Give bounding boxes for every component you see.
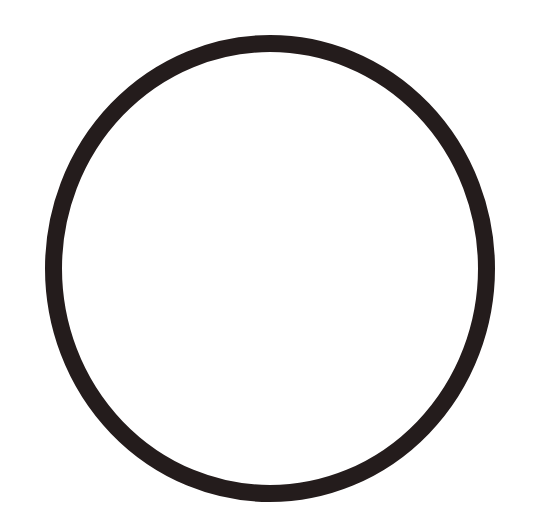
canvas [0, 0, 537, 527]
ring-graphic [0, 0, 537, 527]
background [0, 0, 537, 527]
